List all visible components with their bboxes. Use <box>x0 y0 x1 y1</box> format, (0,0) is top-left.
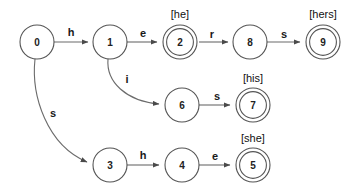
edge-label-4-5: e <box>212 150 218 162</box>
edge-label-2-8: r <box>210 28 215 40</box>
output-label-5: [she] <box>241 132 265 144</box>
node-3[interactable]: 3 <box>93 148 127 182</box>
edge-label-1-2: e <box>140 27 146 39</box>
output-label-2: [he] <box>171 8 189 20</box>
node-8[interactable]: 8 <box>233 25 267 59</box>
nodes-layer: 0128967345 <box>20 25 340 182</box>
edge-label-6-7: s <box>214 90 220 102</box>
diagram-canvas: 0128967345 hersisshe[he][hers][his][she] <box>0 0 358 193</box>
node-label-3: 3 <box>107 160 113 171</box>
edge-label-8-9: s <box>281 28 287 40</box>
automaton-graph: 0128967345 hersisshe[he][hers][his][she] <box>0 0 358 193</box>
edge-label-0-3: s <box>50 107 56 119</box>
edge-label-0-1: h <box>68 26 75 38</box>
node-4[interactable]: 4 <box>165 148 199 182</box>
node-label-4: 4 <box>179 160 185 171</box>
node-0[interactable]: 0 <box>20 25 54 59</box>
edge-label-3-4: h <box>140 149 147 161</box>
node-7[interactable]: 7 <box>236 88 270 122</box>
edge-label-1-6: i <box>125 73 128 85</box>
node-6[interactable]: 6 <box>165 88 199 122</box>
edge-1-to-6 <box>108 59 159 104</box>
node-label-2: 2 <box>177 37 183 48</box>
node-label-6: 6 <box>179 100 185 111</box>
node-2[interactable]: 2 <box>163 25 197 59</box>
node-9[interactable]: 9 <box>306 25 340 59</box>
node-label-5: 5 <box>250 160 256 171</box>
edge-0-to-3 <box>34 59 87 162</box>
output-label-7: [his] <box>243 72 263 84</box>
node-label-8: 8 <box>247 37 253 48</box>
output-label-9: [hers] <box>309 8 337 20</box>
node-label-9: 9 <box>320 37 326 48</box>
node-5[interactable]: 5 <box>236 148 270 182</box>
node-label-7: 7 <box>250 100 256 111</box>
node-label-1: 1 <box>107 37 113 48</box>
node-label-0: 0 <box>34 37 40 48</box>
node-1[interactable]: 1 <box>93 25 127 59</box>
